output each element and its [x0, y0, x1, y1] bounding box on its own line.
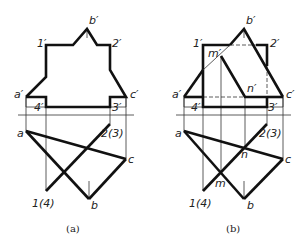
label-m: m — [215, 177, 226, 190]
label-m-prime: m′ — [208, 47, 222, 60]
label-2-3: 2(3) — [259, 127, 282, 140]
label-1-prime: 1′ — [37, 37, 47, 50]
drawing-canvas: b′ 1′ 2′ a′ c′ 4′ 3′ a 2(3) c 1(4) b (a) — [0, 0, 308, 246]
label-4-prime: 4′ — [191, 101, 201, 114]
label-n-prime: n′ — [247, 82, 257, 95]
figure-a: b′ 1′ 2′ a′ c′ 4′ 3′ a 2(3) c 1(4) b (a) — [14, 14, 139, 234]
edge-ab — [26, 131, 89, 199]
label-c: c — [128, 153, 134, 166]
label-b-prime: b′ — [246, 14, 256, 27]
label-2-prime: 2′ — [112, 37, 122, 50]
label-a-prime: a′ — [172, 88, 182, 101]
label-b: b — [91, 199, 98, 212]
figure-b: b′ 1′ 2′ m′ n′ a′ c′ 4′ 3′ a 2(3) n c m … — [172, 14, 295, 234]
pyramid-edge — [184, 70, 203, 97]
caption-b: (b) — [226, 223, 240, 234]
label-1-prime: 1′ — [193, 37, 203, 50]
label-4-prime: 4′ — [34, 101, 44, 114]
edge-bc — [244, 159, 283, 199]
label-a: a — [17, 127, 24, 140]
edge-14-23 — [203, 124, 267, 191]
label-1-4: 1(4) — [32, 197, 55, 210]
edge-ab — [184, 131, 244, 199]
label-3-prime: 3′ — [112, 101, 122, 114]
label-c-prime: c′ — [286, 88, 295, 101]
label-c: c — [285, 153, 291, 166]
label-2-prime: 2′ — [270, 37, 280, 50]
label-a: a — [175, 127, 182, 140]
label-b-prime: b′ — [89, 14, 99, 27]
label-3-prime: 3′ — [268, 101, 278, 114]
label-n: n — [241, 148, 248, 161]
caption-a: (a) — [66, 223, 80, 234]
label-c-prime: c′ — [130, 88, 139, 101]
label-2-3: 2(3) — [101, 127, 124, 140]
label-b: b — [247, 199, 254, 212]
prism-base — [203, 97, 267, 107]
prism-edge — [256, 45, 267, 66]
edge-bc — [89, 159, 126, 199]
label-a-prime: a′ — [14, 88, 24, 101]
intersection-line-mn — [221, 56, 267, 97]
label-1-4: 1(4) — [189, 197, 212, 210]
